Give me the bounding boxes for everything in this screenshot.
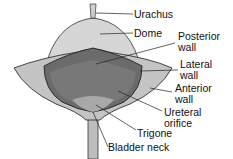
bladder-diagram: Urachus Dome Posterior wall Lateral wall… [0, 0, 233, 159]
label-anterior-wall-line2: wall [175, 94, 193, 104]
label-dome: Dome [134, 28, 162, 38]
label-lateral-wall-line1: Lateral [180, 59, 212, 69]
label-anterior-wall-line1: Anterior [175, 83, 212, 93]
label-posterior-wall-line1: Posterior [178, 31, 220, 41]
label-posterior-wall-line2: wall [178, 42, 196, 52]
label-ureteral-orifice-line1: Ureteral [164, 107, 201, 117]
label-lateral-wall-line2: wall [180, 70, 198, 80]
label-bladder-neck: Bladder neck [108, 142, 169, 152]
label-urachus: Urachus [134, 9, 173, 19]
label-trigone: Trigone [137, 128, 172, 138]
